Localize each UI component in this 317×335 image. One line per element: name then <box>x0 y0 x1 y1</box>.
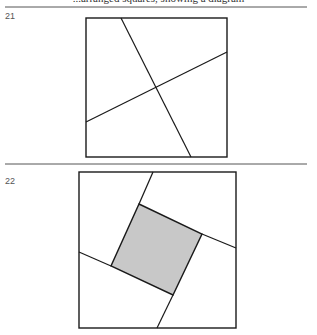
shaded-inner-square <box>111 204 202 295</box>
dissection-line-22-0 <box>139 172 153 204</box>
geometry-diagram <box>0 0 317 335</box>
dissection-line-22-1 <box>202 234 236 248</box>
book-page: ...arranged squares, showing a diagram 2… <box>0 0 317 335</box>
dissection-line-21-1 <box>86 52 227 122</box>
figure-number-21: 21 <box>5 11 15 21</box>
dissection-line-22-2 <box>157 295 173 328</box>
dissection-line-22-3 <box>79 252 111 266</box>
figure-number-22: 22 <box>5 176 15 186</box>
